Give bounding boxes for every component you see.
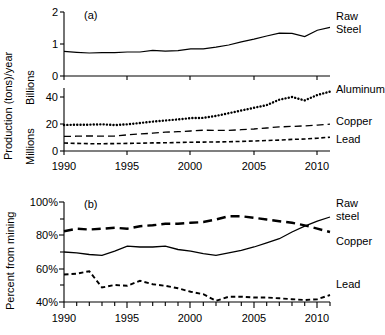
panel-a-axis-label: Production (tons)/year (2, 51, 14, 160)
panel-b-ytick-60: 60% (36, 263, 58, 275)
panel-b-xtick-2000: 2000 (178, 312, 202, 324)
series-label-raw-steel-b-1: Raw (336, 197, 358, 209)
panel-b-xtick-1990: 1990 (52, 312, 76, 324)
panel-b-xtick-2005: 2005 (242, 312, 266, 324)
panel-a-top-ytick-2: 2 (52, 6, 58, 18)
series-label-lead-b: Lead (336, 278, 360, 290)
panel-a-top-ytick-0: 0 (52, 70, 58, 82)
panel-a-bottom-ytick-40: 40 (46, 91, 58, 103)
panel-b-tag: (b) (84, 198, 97, 210)
series-label-lead-a: Lead (336, 133, 360, 145)
panel-a-xtick-1995: 1995 (115, 160, 139, 172)
panel-b-ytick-80: 80% (36, 229, 58, 241)
panel-b-xtick-2010: 2010 (305, 312, 329, 324)
panel-a-tag: (a) (84, 9, 97, 21)
figure-root: Production (tons)/year Billions (a) 2 1 … (0, 0, 385, 335)
panel-a-bottom-ytick-0: 0 (52, 145, 58, 157)
panel-a-xtick-2010: 2010 (305, 160, 329, 172)
series-lead-b (64, 271, 330, 301)
panel-a-top-axes (60, 12, 330, 80)
series-lead-a (64, 137, 330, 144)
series-label-raw-steel-a-2: Steel (336, 23, 361, 35)
panel-b-xtick-1995: 1995 (115, 312, 139, 324)
series-copper-b (64, 216, 330, 232)
panel-b-ytick-40: 40% (36, 296, 58, 308)
series-label-copper-a: Copper (336, 115, 372, 127)
panel-a-xtick-1990: 1990 (52, 160, 76, 172)
panel-a-bottom-ytick-20: 20 (46, 118, 58, 130)
panel-a-top-ytick-1: 1 (52, 38, 58, 50)
two-panel-line-chart: Production (tons)/year Billions (a) 2 1 … (0, 0, 385, 335)
panel-b-ytick-100: 100% (30, 196, 58, 208)
series-label-aluminum-a: Aluminum (336, 83, 385, 95)
panel-a-xtick-2000: 2000 (178, 160, 202, 172)
series-aluminum-a (64, 92, 330, 126)
series-raw-steel-a (64, 27, 330, 53)
series-label-raw-steel-a-1: Raw (336, 10, 358, 22)
series-label-copper-b: Copper (336, 235, 372, 247)
panel-a-top-unit-label: Billions (24, 70, 36, 105)
panel-a-bottom-unit-label: Millions (24, 128, 36, 165)
series-copper-a (64, 124, 330, 136)
series-label-raw-steel-b-2: steel (336, 210, 359, 222)
panel-b-axis-label: Percent from mining (4, 212, 16, 310)
panel-a-xtick-2005: 2005 (242, 160, 266, 172)
